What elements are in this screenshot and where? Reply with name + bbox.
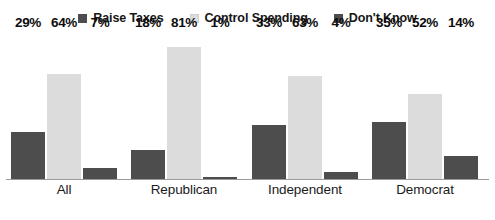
bar-rect [11,132,45,179]
category-label: Democrat [369,181,481,199]
bar[interactable]: 18% [131,32,165,179]
bar-rect [203,177,237,179]
bar-value-label: 81% [171,16,197,30]
category-axis-labels: AllRepublicanIndependentDemocrat [0,181,495,209]
bar-rect [167,47,201,179]
bar[interactable]: 52% [408,32,442,179]
plot-area: 29%64%7%18%81%1%33%63%4%35%52%14% [0,32,495,180]
bar[interactable]: 33% [252,32,286,179]
bar-rect [47,74,81,179]
bar-chart: Raise TaxesControl SpendingDon't Know 29… [0,0,495,220]
bar-value-label: 7% [91,16,110,30]
x-axis-baseline [6,179,489,180]
bar-value-label: 63% [292,16,318,30]
bar-rect [324,172,358,179]
category-label: Independent [249,181,361,199]
bar-rect [83,168,117,179]
bar[interactable]: 81% [167,32,201,179]
square-swatch-icon [78,14,87,23]
bar-value-label: 52% [412,16,438,30]
bar-value-label: 33% [256,16,282,30]
bar[interactable]: 7% [83,32,117,179]
bar[interactable]: 35% [372,32,406,179]
bar-value-label: 35% [376,16,402,30]
bar-value-label: 64% [51,16,77,30]
bar-value-label: 4% [332,16,351,30]
bar-rect [288,76,322,179]
bar-group-bars: 33%63%4% [249,32,361,179]
bar-rect [408,94,442,179]
bar-value-label: 1% [211,16,230,30]
bar[interactable]: 4% [324,32,358,179]
bar-value-label: 14% [448,16,474,30]
bar-value-label: 29% [15,16,41,30]
category-label: All [8,181,120,199]
bar[interactable]: 29% [11,32,45,179]
bar-rect [444,156,478,179]
bar-group: 35%52%14% [369,32,481,179]
legend-item[interactable]: Control Spending [190,12,308,25]
bar-group: 18%81%1% [128,32,240,179]
bar[interactable]: 14% [444,32,478,179]
bar-group: 33%63%4% [249,32,361,179]
bar[interactable]: 1% [203,32,237,179]
bar[interactable]: 64% [47,32,81,179]
category-label: Republican [128,181,240,199]
bar-group-bars: 35%52%14% [369,32,481,179]
bar-group-bars: 18%81%1% [128,32,240,179]
bar-value-label: 18% [135,16,161,30]
bar-rect [372,122,406,179]
bar-group: 29%64%7% [8,32,120,179]
bar-rect [252,125,286,179]
bar-group-bars: 29%64%7% [8,32,120,179]
bar[interactable]: 63% [288,32,322,179]
bar-rect [131,150,165,179]
